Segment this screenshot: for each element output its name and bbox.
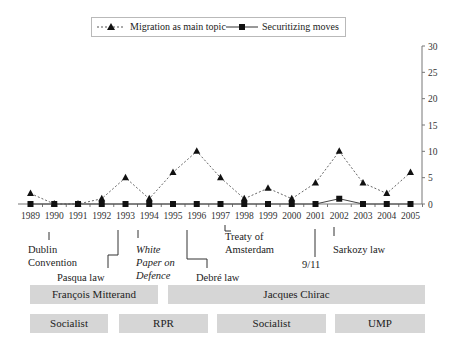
annotation-pasqua-law: Pasqua law [57, 271, 105, 284]
square-marker-icon [123, 201, 129, 207]
band-government-socialist-1: Socialist [30, 314, 108, 333]
y-tick-label: 30 [428, 42, 438, 52]
annotation-treaty-amsterdam: Treaty ofAmsterdam [225, 230, 274, 256]
triangle-marker-icon [170, 168, 177, 175]
square-marker-icon [75, 201, 81, 207]
square-marker-icon [408, 201, 414, 207]
annotation-white-paper: WhitePaper onDefence [136, 243, 175, 282]
square-marker-icon [170, 201, 176, 207]
band-president-mitterand: François Mitterand [30, 285, 158, 304]
x-tick-label: 1993 [116, 211, 135, 221]
square-marker-icon [194, 201, 200, 207]
x-tick-label: 1998 [235, 211, 254, 221]
square-marker-icon [313, 201, 319, 207]
x-tick-label: 1995 [164, 211, 183, 221]
x-tick-label: 2003 [354, 211, 373, 221]
square-marker-icon [28, 201, 34, 207]
x-tick-label: 2000 [282, 211, 301, 221]
triangle-marker-icon [122, 174, 129, 181]
x-tick-label: 2005 [401, 211, 420, 221]
triangle-marker-icon [336, 147, 343, 154]
legend-item-securitizing: Securitizing moves [262, 18, 339, 36]
triangle-marker-icon [241, 195, 248, 202]
band-government-ump: UMP [335, 314, 425, 333]
triangle-marker-icon [193, 147, 200, 154]
square-marker-icon [336, 196, 342, 202]
band-government-rpr: RPR [119, 314, 208, 333]
y-tick-label: 0 [428, 200, 433, 210]
x-tick-label: 1989 [21, 211, 40, 221]
annotation-line-pasqua [108, 230, 118, 268]
legend-item-migration: Migration as main topic [130, 18, 226, 36]
triangle-marker-icon [27, 189, 34, 196]
x-tick-label: 1990 [45, 211, 64, 221]
x-tick-label: 1991 [69, 211, 88, 221]
square-marker-icon [384, 201, 390, 207]
triangle-marker-icon [98, 195, 105, 202]
x-tick-label: 1994 [140, 211, 159, 221]
x-tick-label: 2001 [306, 211, 325, 221]
band-president-chirac: Jacques Chirac [168, 285, 425, 304]
y-tick-label: 20 [428, 94, 438, 104]
y-tick-label: 15 [428, 121, 438, 131]
square-marker-icon [51, 201, 57, 207]
x-tick-label: 2002 [330, 211, 349, 221]
chart-legend: Migration as main topic Securitizing mov… [91, 17, 346, 37]
square-marker-icon [289, 201, 295, 207]
y-tick-label: 10 [428, 147, 438, 157]
square-marker-icon [241, 201, 247, 207]
triangle-marker-icon [383, 189, 390, 196]
band-government-socialist-2: Socialist [217, 314, 326, 333]
annotation-debre-law: Debré law [196, 271, 239, 284]
annotation-line-debre [187, 230, 207, 268]
x-tick-label: 1999 [259, 211, 278, 221]
square-marker-icon [265, 201, 271, 207]
x-tick-label: 1996 [187, 211, 206, 221]
annotation-9-11: 9/11 [302, 258, 320, 271]
triangle-marker-icon [360, 179, 367, 186]
triangle-marker-icon [265, 184, 272, 191]
x-tick-label: 1997 [211, 211, 230, 221]
x-tick-label: 1992 [92, 211, 111, 221]
x-tick-label: 2004 [377, 211, 396, 221]
square-marker-icon [218, 201, 224, 207]
square-marker-icon [239, 24, 245, 30]
y-tick-label: 25 [428, 68, 438, 78]
square-marker-icon [360, 201, 366, 207]
triangle-marker-icon [407, 168, 414, 175]
square-marker-icon [146, 201, 152, 207]
y-tick-label: 5 [428, 173, 433, 183]
annotation-sarkozy-law: Sarkozy law [333, 243, 385, 256]
square-marker-icon [99, 201, 105, 207]
annotation-dublin-convention: DublinConvention [28, 243, 77, 269]
